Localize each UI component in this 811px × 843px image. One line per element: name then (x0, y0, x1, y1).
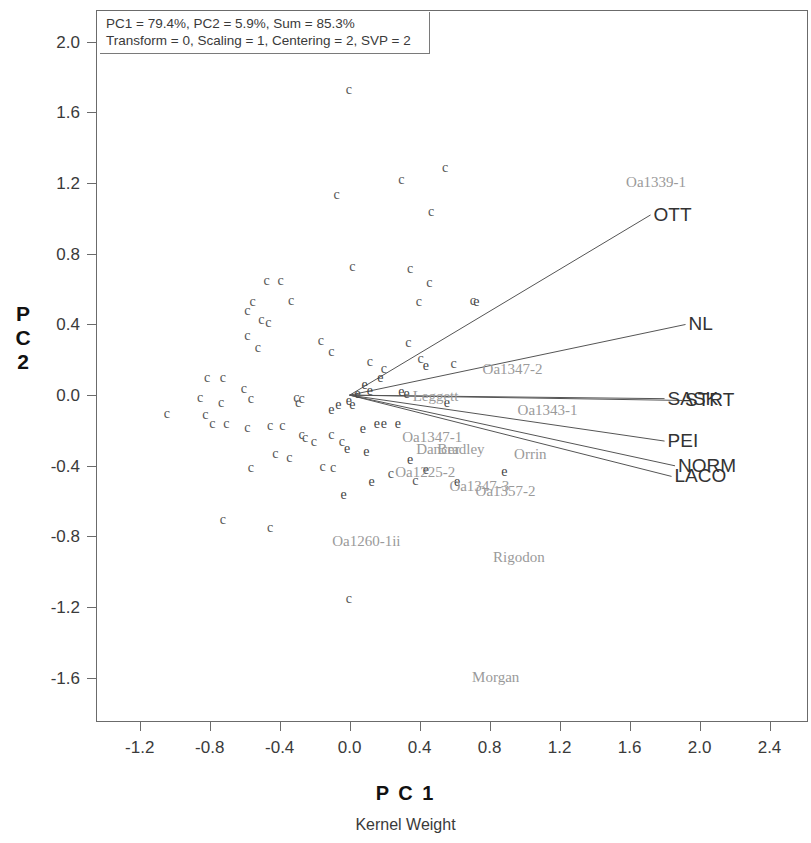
genotype-label: Oa1357-2 (476, 484, 536, 499)
annotation-line-2: Transform = 0, Scaling = 1, Centering = … (106, 32, 423, 49)
genotype-marker: c (398, 173, 404, 187)
genotype-marker: c (209, 417, 215, 431)
y-tick-label: 1.2 (34, 174, 80, 194)
genotype-marker: c (442, 161, 448, 175)
genotype-marker: c (277, 274, 283, 288)
genotype-label: Oa1339-1 (626, 175, 686, 190)
genotype-marker: c (220, 513, 226, 527)
y-tick-label: 0.4 (34, 315, 80, 335)
genotype-label: Orrin (514, 447, 547, 462)
y-tick-label: 2.0 (34, 33, 80, 53)
y-tick-mark (87, 112, 96, 113)
x-tick-label: 2.4 (740, 738, 800, 758)
x-tick-label: 0.8 (460, 738, 520, 758)
genotype-marker: c (248, 392, 254, 406)
genotype-marker: c (346, 592, 352, 606)
genotype-marker: c (255, 341, 261, 355)
genotype-label: Bradley (437, 442, 484, 457)
genotype-marker: c (330, 461, 336, 475)
y-tick-mark (87, 254, 96, 255)
y-tick-mark (87, 466, 96, 467)
x-tick-label: 1.2 (530, 738, 590, 758)
x-tick-mark (140, 722, 141, 731)
environment-marker: e (377, 371, 383, 385)
genotype-marker: c (367, 355, 373, 369)
environment-marker: e (328, 403, 334, 417)
genotype-marker: c (451, 357, 457, 371)
genotype-marker: c (333, 188, 339, 202)
genotype-marker: c (267, 419, 273, 433)
genotype-marker: c (328, 345, 334, 359)
genotype-marker: c (244, 421, 250, 435)
genotype-marker: c (220, 371, 226, 385)
genotype-marker: c (346, 83, 352, 97)
genotype-label: Oa1260-1ii (332, 534, 400, 549)
genotype-marker: c (405, 336, 411, 350)
environment-label-pei: PEI (668, 431, 699, 450)
y-axis-title-2: 2 (8, 350, 38, 374)
genotype-marker: c (416, 295, 422, 309)
x-tick-mark (630, 722, 631, 731)
environment-label-strt: STRT (685, 390, 734, 409)
y-tick-label: -1.6 (34, 669, 80, 689)
genotype-marker: c (288, 294, 294, 308)
x-tick-mark (420, 722, 421, 731)
environment-marker: e (473, 295, 479, 309)
environment-marker: e (363, 445, 369, 459)
genotype-marker: c (428, 205, 434, 219)
y-tick-mark (87, 183, 96, 184)
y-tick-mark (87, 42, 96, 43)
genotype-marker: c (265, 316, 271, 330)
annotation-line-1: PC1 = 79.4%, PC2 = 5.9%, Sum = 85.3% (106, 15, 423, 32)
y-tick-mark (87, 395, 96, 396)
genotype-marker: c (202, 408, 208, 422)
genotype-marker: c (258, 313, 264, 327)
x-tick-label: -0.8 (180, 738, 240, 758)
environment-marker: e (360, 422, 366, 436)
environment-marker: e (374, 417, 380, 431)
environment-label-nl: NL (689, 314, 713, 333)
genotype-marker: c (267, 521, 273, 535)
genotype-marker: c (407, 262, 413, 276)
genotype-marker: c (244, 304, 250, 318)
x-tick-label: 0.4 (390, 738, 450, 758)
environment-marker: e (340, 488, 346, 502)
genotype-marker: c (248, 461, 254, 475)
genotype-marker: c (349, 260, 355, 274)
genotype-label: Rigodon (493, 550, 545, 565)
x-tick-label: -1.2 (110, 738, 170, 758)
environment-marker: e (381, 417, 387, 431)
environment-marker: e (423, 359, 429, 373)
environment-marker: e (368, 475, 374, 489)
y-tick-label: 0.0 (34, 386, 80, 406)
environment-marker: e (367, 384, 373, 398)
x-tick-mark (210, 722, 211, 731)
genotype-marker: c (426, 276, 432, 290)
genotype-label: Oa1225-2 (395, 465, 455, 480)
x-tick-label: 2.0 (670, 738, 730, 758)
figure-subtitle: Kernel Weight (0, 816, 811, 834)
genotype-marker: c (164, 407, 170, 421)
genotype-marker: c (244, 329, 250, 343)
y-tick-mark (87, 607, 96, 608)
genotype-marker: c (218, 396, 224, 410)
environment-marker: e (403, 387, 409, 401)
genotype-marker: c (272, 447, 278, 461)
y-tick-label: 0.8 (34, 245, 80, 265)
genotype-label: Oa1343-1 (518, 403, 578, 418)
x-tick-mark (280, 722, 281, 731)
x-tick-label: 0.0 (320, 738, 380, 758)
x-tick-label: 1.6 (600, 738, 660, 758)
environment-marker: e (501, 465, 507, 479)
x-tick-label: -0.4 (250, 738, 310, 758)
y-tick-label: -1.2 (34, 598, 80, 618)
annotation-box: PC1 = 79.4%, PC2 = 5.9%, Sum = 85.3% Tra… (100, 12, 430, 54)
y-tick-label: 1.6 (34, 103, 80, 123)
environment-label-ott: OTT (654, 205, 692, 224)
y-tick-mark (87, 324, 96, 325)
environment-marker: e (344, 442, 350, 456)
genotype-marker: c (295, 396, 301, 410)
genotype-marker: c (328, 428, 334, 442)
genotype-marker: c (311, 435, 317, 449)
genotype-marker: c (204, 371, 210, 385)
